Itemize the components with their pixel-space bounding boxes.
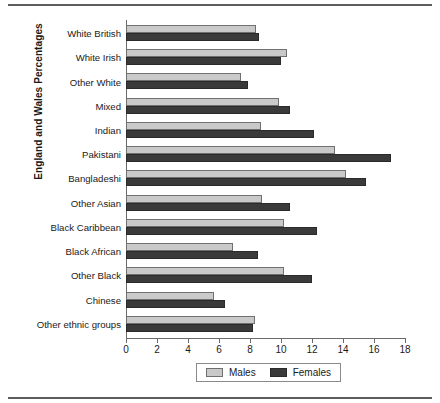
legend-label: Males <box>229 367 256 378</box>
bar-group: White British <box>126 22 405 46</box>
bar-males <box>126 98 279 106</box>
bar-males <box>126 25 256 33</box>
bar-females <box>126 324 253 332</box>
bar-group: Other Black <box>126 264 405 288</box>
category-label: White British <box>67 29 121 39</box>
bar-females <box>126 300 225 308</box>
y-axis-title: England and Wales Percentages <box>33 0 44 212</box>
bar-group: Other ethnic groups <box>126 313 405 337</box>
category-label: Bangladeshi <box>68 175 121 185</box>
x-tick-label: 6 <box>216 344 222 355</box>
x-tick-label: 12 <box>306 344 317 355</box>
x-tick <box>250 338 251 343</box>
bar-group: Chinese <box>126 289 405 313</box>
bar-group: Black African <box>126 240 405 264</box>
bar-males <box>126 292 214 300</box>
x-tick <box>188 338 189 343</box>
category-label: Pakistani <box>82 150 121 160</box>
bar-males <box>126 122 261 130</box>
x-tick-label: 0 <box>123 344 129 355</box>
x-axis-line <box>126 338 406 339</box>
x-tick-label: 4 <box>185 344 191 355</box>
bar-group: Indian <box>126 119 405 143</box>
category-label: White Irish <box>76 54 121 64</box>
bar-males <box>126 267 284 275</box>
category-label: Indian <box>95 126 121 136</box>
legend-swatch-males-icon <box>206 368 223 377</box>
bar-females <box>126 130 314 138</box>
x-tick <box>126 338 127 343</box>
category-label: Other White <box>70 78 121 88</box>
bar-males <box>126 219 284 227</box>
chart-legend: MalesFemales <box>196 363 341 382</box>
category-label: Black African <box>66 247 121 257</box>
bar-females <box>126 154 391 162</box>
x-tick-label: 18 <box>399 344 410 355</box>
x-tick-label: 16 <box>368 344 379 355</box>
bar-males <box>126 73 241 81</box>
bar-females <box>126 178 366 186</box>
category-label: Black Caribbean <box>51 223 121 233</box>
bar-males <box>126 49 287 57</box>
bottom-divider-rule <box>8 397 432 399</box>
category-label: Mixed <box>95 102 121 112</box>
bar-group: Other White <box>126 70 405 94</box>
bar-group: Bangladeshi <box>126 167 405 191</box>
legend-swatch-females-icon <box>270 368 287 377</box>
bar-females <box>126 33 259 41</box>
bar-females <box>126 57 281 65</box>
bar-group: Pakistani <box>126 143 405 167</box>
bar-males <box>126 146 335 154</box>
bar-males <box>126 170 346 178</box>
bar-females <box>126 251 258 259</box>
x-tick <box>405 338 406 343</box>
bar-females <box>126 81 248 89</box>
x-tick <box>374 338 375 343</box>
category-label: Other Black <box>71 272 121 282</box>
bar-females <box>126 227 317 235</box>
x-tick-label: 2 <box>154 344 160 355</box>
bar-males <box>126 243 233 251</box>
bar-males <box>126 316 255 324</box>
x-tick-label: 14 <box>337 344 348 355</box>
category-label: Other Asian <box>71 199 121 209</box>
legend-item-males[interactable]: Males <box>206 367 256 378</box>
bar-group: Other Asian <box>126 192 405 216</box>
x-tick <box>343 338 344 343</box>
bar-group: Black Caribbean <box>126 216 405 240</box>
chart-figure: England and Wales Percentages White Brit… <box>0 0 440 403</box>
legend-label: Females <box>293 367 331 378</box>
x-tick <box>312 338 313 343</box>
category-label: Chinese <box>86 296 121 306</box>
bar-group: Mixed <box>126 95 405 119</box>
bar-females <box>126 203 290 211</box>
top-divider-rule <box>8 4 432 6</box>
category-label: Other ethnic groups <box>37 320 121 330</box>
x-tick-label: 10 <box>275 344 286 355</box>
bar-group: White Irish <box>126 46 405 70</box>
bar-females <box>126 106 290 114</box>
legend-item-females[interactable]: Females <box>270 367 331 378</box>
plot-area: White BritishWhite IrishOther WhiteMixed… <box>126 22 405 337</box>
bar-females <box>126 275 312 283</box>
bar-males <box>126 195 262 203</box>
x-tick <box>219 338 220 343</box>
x-tick <box>157 338 158 343</box>
x-tick <box>281 338 282 343</box>
x-tick-label: 8 <box>247 344 253 355</box>
